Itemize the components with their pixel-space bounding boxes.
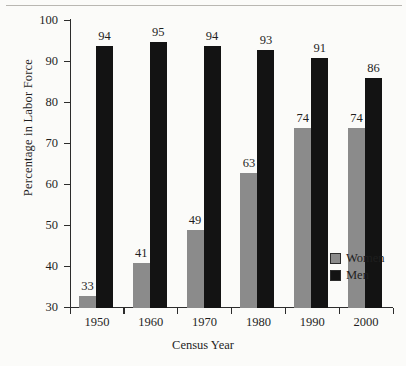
x-tick-6 [393, 308, 394, 314]
chart-figure: Percentage in Labor Force 10090807060504… [0, 0, 406, 366]
y-tick-label-70: 70 [14, 137, 58, 150]
legend-item-men: Men [330, 268, 385, 283]
y-tick-label-50: 50 [14, 219, 58, 232]
bar-value-men-2000: 86 [354, 62, 394, 75]
y-tick-label-60: 60 [14, 178, 58, 191]
x-tick-4 [285, 308, 286, 314]
bar-value-men-1980: 93 [246, 34, 286, 47]
bar-women-1950 [79, 296, 96, 308]
y-tick-label-90: 90 [14, 55, 58, 68]
legend-label-women: Women [346, 251, 385, 266]
bar-men-1980 [257, 50, 274, 308]
legend-item-women: Women [330, 251, 385, 266]
x-tick-label-1950: 1950 [67, 316, 127, 329]
legend-swatch-men-icon [330, 270, 341, 281]
y-tick-label-40: 40 [14, 260, 58, 273]
bar-value-men-1990: 91 [300, 42, 340, 55]
x-tick-label-1990: 1990 [282, 316, 342, 329]
x-tick-1 [123, 308, 124, 314]
y-tick-label-80: 80 [14, 96, 58, 109]
x-tick-5 [339, 308, 340, 314]
y-axis-title: Percentage in Labor Force [21, 8, 36, 248]
page-top-rule [6, 5, 402, 6]
bar-women-1960 [133, 263, 150, 308]
bar-value-men-1960: 95 [138, 26, 178, 39]
x-axis-title: Census Year [0, 338, 406, 353]
y-tick-label-30: 30 [14, 301, 58, 314]
bar-women-1970 [187, 230, 204, 308]
x-tick-3 [231, 308, 232, 314]
x-tick-0 [70, 308, 71, 314]
x-tick-label-1970: 1970 [175, 316, 235, 329]
bar-men-1970 [204, 46, 221, 308]
bar-men-1960 [150, 42, 167, 309]
bar-women-1990 [294, 128, 311, 308]
bar-value-men-1950: 94 [84, 30, 124, 43]
x-tick-label-2000: 2000 [336, 316, 396, 329]
chart-legend: WomenMen [330, 251, 385, 285]
legend-swatch-women-icon [330, 253, 341, 264]
bar-women-1980 [240, 173, 257, 308]
y-tick-label-100: 100 [14, 14, 58, 27]
bar-value-men-1970: 94 [192, 30, 232, 43]
bar-men-1950 [96, 46, 113, 308]
bar-men-1990 [311, 58, 328, 308]
x-tick-2 [177, 308, 178, 314]
x-tick-label-1980: 1980 [228, 316, 288, 329]
legend-label-men: Men [346, 268, 369, 283]
x-tick-label-1960: 1960 [121, 316, 181, 329]
